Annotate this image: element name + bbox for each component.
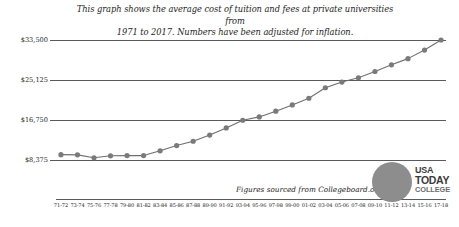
x-axis-tick-label: 75-76 [87, 202, 101, 208]
chart-title-line-2: 1971 to 2017. Numbers have been adjusted… [70, 27, 400, 39]
data-series-line [56, 40, 446, 160]
plot-area [56, 40, 446, 160]
x-axis-tick-label: 85-86 [170, 202, 184, 208]
data-point-marker [290, 102, 295, 107]
x-axis-tick-label: 07-08 [351, 202, 365, 208]
data-point-marker [141, 153, 146, 158]
logo-wordmark: USA TODAY COLLEGE [415, 166, 450, 195]
data-point-marker [207, 132, 212, 137]
y-axis-tick-label: $16,750 [4, 116, 48, 124]
x-axis-tick-label: 77-78 [103, 202, 117, 208]
data-point-marker [306, 96, 311, 101]
data-point-marker [158, 148, 163, 153]
x-axis-tick-label: 01-02 [302, 202, 316, 208]
x-axis-tick-label: 83-84 [153, 202, 167, 208]
x-axis-tick-label: 03-04 [318, 202, 332, 208]
chart-title: This graph shows the average cost of tui… [70, 4, 400, 39]
x-axis-tick-label: 97-98 [269, 202, 283, 208]
y-axis-tick-label: $33,500 [4, 36, 48, 44]
logo-line-today: TODAY [415, 176, 450, 186]
x-axis-tick-label: 79-80 [120, 202, 134, 208]
data-point-marker [75, 152, 80, 157]
series-polyline [61, 40, 441, 158]
data-point-marker [422, 47, 427, 52]
data-point-marker [124, 153, 129, 158]
chart-container: This graph shows the average cost of tui… [0, 0, 459, 227]
data-point-marker [240, 118, 245, 123]
logo-circle-icon [372, 162, 412, 202]
source-attribution: Figures sourced from Collegeboard.org [236, 185, 383, 194]
chart-title-line-1: This graph shows the average cost of tui… [70, 4, 400, 27]
data-point-marker [91, 155, 96, 160]
x-axis-tick-label: 73-74 [70, 202, 84, 208]
x-axis-tick-label: 81-82 [136, 202, 150, 208]
x-axis-tick-label: 87-88 [186, 202, 200, 208]
data-point-marker [405, 56, 410, 61]
data-point-marker [389, 62, 394, 67]
data-point-marker [438, 37, 443, 42]
y-axis-tick-label: $25,125 [4, 76, 48, 84]
y-axis-tick-label: $8,375 [4, 156, 48, 164]
x-axis-tick-label: 99-00 [285, 202, 299, 208]
data-point-marker [108, 153, 113, 158]
data-point-marker [339, 79, 344, 84]
x-axis-tick-label: 05-06 [335, 202, 349, 208]
series-markers [58, 37, 443, 160]
data-point-marker [372, 69, 377, 74]
x-axis-tick-label: 93-94 [236, 202, 250, 208]
logo-line-college: COLLEGE [415, 185, 450, 195]
data-point-marker [191, 139, 196, 144]
x-axis-tick-label: 95-96 [252, 202, 266, 208]
data-point-marker [273, 109, 278, 114]
data-point-marker [224, 125, 229, 130]
x-axis-tick-label: 71-72 [54, 202, 68, 208]
data-point-marker [58, 152, 63, 157]
data-point-marker [257, 114, 262, 119]
x-axis-tick-label: 91-92 [219, 202, 233, 208]
data-point-marker [323, 85, 328, 90]
x-axis-labels: 71-7273-7475-7677-7879-8081-8283-8485-86… [56, 202, 446, 216]
x-axis-tick-label: 89-90 [203, 202, 217, 208]
data-point-marker [174, 143, 179, 148]
usa-today-college-logo: USA TODAY COLLEGE [372, 160, 456, 204]
data-point-marker [356, 75, 361, 80]
